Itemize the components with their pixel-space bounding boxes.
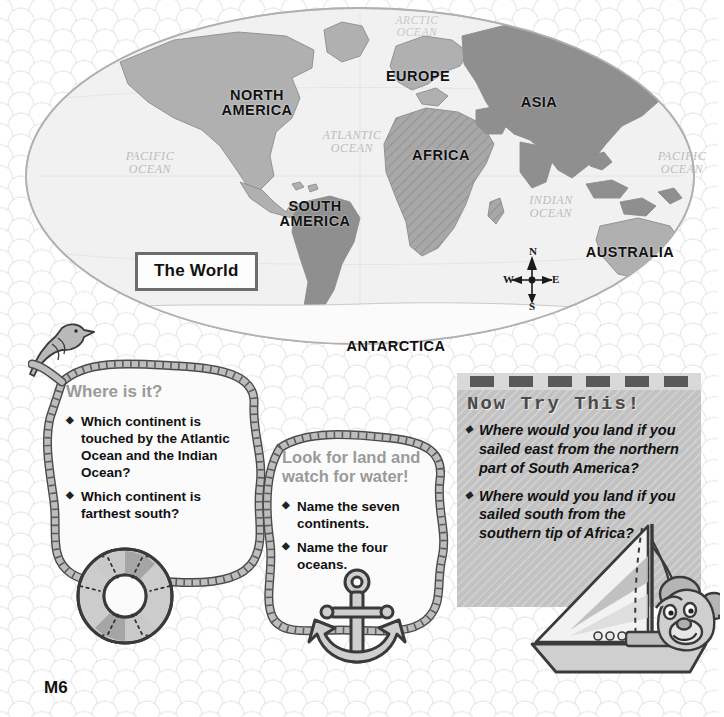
list-item: ◆ Name the seven continents. (282, 498, 436, 532)
map-label-asia: ASIA (503, 95, 575, 110)
bullet-icon: ◆ (465, 422, 473, 435)
band-dash-icon (664, 376, 688, 387)
map-label-arctic-ocean: ARCTIC OCEAN (374, 14, 460, 39)
world-map-graphic (24, 6, 696, 346)
compass-label-east: E (552, 273, 559, 285)
anchor-icon (297, 564, 417, 680)
rope-box-where-is-it: Where is it? ◆ Which continent is touche… (28, 352, 288, 627)
compass-label-west: W (503, 273, 514, 285)
sailboat-with-bear-icon (530, 520, 720, 685)
map-title-box: The World (135, 252, 258, 291)
life-ring-icon (70, 542, 180, 650)
compass-label-north: N (529, 245, 537, 257)
question-text: Which continent is touched by the Atlant… (81, 414, 230, 480)
map-label-atlantic-ocean: ATLANTIC OCEAN (306, 129, 398, 155)
map-label-south-america: SOUTH AMERICA (262, 199, 368, 229)
compass-rose-icon: N S W E (502, 246, 562, 314)
map-label-indian-ocean: INDIAN OCEAN (505, 194, 597, 220)
rope-box-1-heading: Where is it? (66, 382, 242, 401)
band-dash-icon (586, 376, 610, 387)
world-map: NORTH AMERICA SOUTH AMERICA EUROPE AFRIC… (24, 6, 696, 356)
list-item: ◆ Where would you land if you sailed eas… (465, 421, 679, 478)
rope-box-look-for-land: Look for land and watch for water! ◆ Nam… (254, 424, 462, 680)
band-dash-icon (625, 376, 649, 387)
map-title: The World (154, 261, 239, 280)
list-item: ◆ Which continent is touched by the Atla… (66, 413, 242, 481)
bullet-icon: ◆ (66, 414, 74, 427)
rope-box-1-content: Where is it? ◆ Which continent is touche… (66, 382, 242, 529)
band-dash-icon (470, 376, 494, 387)
map-label-europe: EUROPE (369, 69, 467, 84)
map-label-pacific-ocean-west: PACIFIC OCEAN (104, 150, 196, 176)
bullet-icon: ◆ (282, 540, 290, 553)
rope-box-2-content: Look for land and watch for water! ◆ Nam… (282, 448, 436, 580)
rope-box-1-question-list: ◆ Which continent is touched by the Atla… (66, 413, 242, 522)
map-label-antarctica: ANTARCTICA (326, 339, 466, 354)
map-label-north-america: NORTH AMERICA (202, 88, 312, 118)
rope-box-2-question-list: ◆ Name the seven continents. ◆ Name the … (282, 498, 436, 573)
bullet-icon: ◆ (282, 499, 290, 512)
question-text: Name the seven continents. (297, 499, 400, 531)
now-try-this-title: Now Try This! (467, 393, 641, 415)
map-label-pacific-ocean-east: PACIFIC OCEAN (636, 150, 724, 176)
rope-box-2-heading: Look for land and watch for water! (282, 448, 436, 486)
question-text: Where would you land if you sailed east … (479, 422, 679, 476)
bullet-icon: ◆ (66, 489, 74, 502)
map-label-africa: AFRICA (398, 148, 484, 163)
map-label-australia: AUSTRALIA (575, 245, 685, 260)
band-dash-icon (509, 376, 533, 387)
list-item: ◆ Which continent is farthest south? (66, 488, 242, 522)
page-number: M6 (44, 678, 68, 698)
question-text: Which continent is farthest south? (81, 489, 201, 521)
now-try-this-dash-band (457, 373, 701, 390)
band-dash-icon (548, 376, 572, 387)
bullet-icon: ◆ (465, 488, 473, 501)
compass-label-south: S (529, 300, 535, 312)
